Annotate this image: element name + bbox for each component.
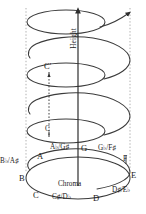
- c-upper-label: C': [44, 62, 51, 71]
- helix-turn-mid: [28, 93, 130, 135]
- note-label-a: A: [37, 152, 43, 161]
- pitch-helix-figure: Height Chroma C' C A A♭/G♯ G G♭/F♯ F E D…: [0, 0, 146, 214]
- note-label-d: D: [93, 194, 99, 203]
- note-label-ds-eb: D♯/E♭: [112, 187, 130, 194]
- helix-turn-upper: [28, 37, 130, 79]
- note-label-g: G: [81, 144, 87, 153]
- helix-loop-top: [27, 10, 105, 34]
- note-label-cs-db: C♯/D♭: [52, 194, 71, 201]
- chroma-axis-label: Chroma: [58, 181, 81, 188]
- helix-loop-2: [27, 119, 105, 143]
- note-label-e: E: [131, 171, 136, 180]
- height-axis-label: Height: [71, 28, 78, 49]
- note-label-ab-gs: A♭/G♯: [50, 144, 69, 151]
- note-label-f: F: [123, 156, 127, 163]
- note-label-bb-as: B♭/A♯: [0, 158, 19, 165]
- note-label-gb-fs: G♭/F♯: [98, 145, 116, 152]
- note-label-b: B: [19, 174, 25, 183]
- c-lower-label: C: [45, 126, 50, 133]
- helix-loop-3: [27, 63, 105, 87]
- note-label-c: C: [33, 191, 39, 200]
